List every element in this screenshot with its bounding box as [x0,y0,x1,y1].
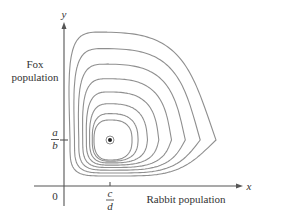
y-axis-title-line1: Fox [26,58,44,70]
x-axis-label: x [246,180,252,192]
equilibrium-point [108,138,112,142]
orbit-curves [69,32,216,176]
phase-portrait-diagram: y x Fox population Rabbit population 0 a… [0,0,284,223]
x-tick-denominator: d [107,200,113,212]
orbit-curve [92,114,138,162]
x-tick-numerator: c [108,187,113,199]
orbit-curve [83,79,172,168]
x-axis-title: Rabbit population [146,193,226,205]
x-axis-arrow-icon [236,184,243,189]
y-axis-arrow-icon [62,22,67,29]
orbit-curve [90,104,148,163]
y-tick-numerator: a [52,126,58,138]
y-axis-label: y [61,8,67,20]
y-axis-title-line2: population [11,71,59,83]
y-tick-denominator: b [52,139,58,151]
origin-label: 0 [52,190,58,202]
